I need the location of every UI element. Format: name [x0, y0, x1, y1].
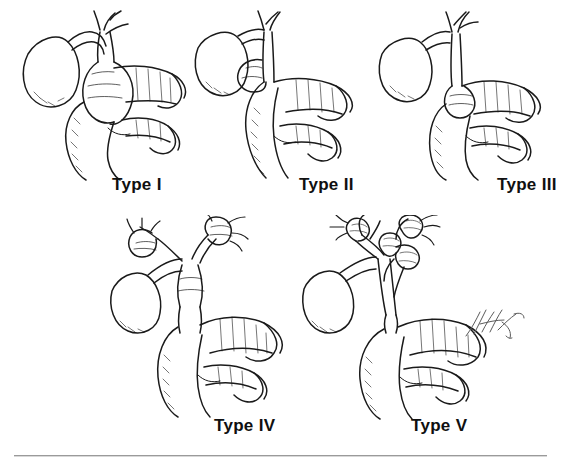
choledochal-cyst-classification-figure: Type I: [0, 0, 565, 469]
bottom-divider: [14, 455, 547, 457]
panel-type-1: Type I: [14, 8, 194, 183]
type-3-illustration: [372, 8, 557, 183]
type-2-illustration: [190, 8, 370, 183]
type-4-illustration: [108, 215, 308, 420]
caption-type-3: Type III: [497, 175, 557, 195]
caption-type-5: Type V: [411, 416, 467, 436]
caption-type-4: Type IV: [214, 416, 275, 436]
panel-type-3: Type III: [372, 8, 557, 183]
type-1-illustration: [14, 8, 194, 183]
caption-type-2: Type II: [299, 175, 354, 195]
panel-type-4: Type IV: [108, 215, 308, 420]
panel-type-2: Type II: [190, 8, 370, 183]
caption-type-1: Type I: [112, 175, 162, 195]
artist-signature: [462, 302, 530, 344]
